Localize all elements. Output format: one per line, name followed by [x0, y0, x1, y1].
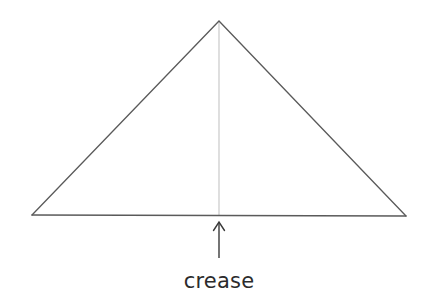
triangle-baseline: [32, 215, 406, 216]
crease-label: crease: [184, 269, 255, 293]
figure-canvas: crease: [0, 0, 428, 299]
crease-diagram-svg: crease: [0, 0, 428, 299]
